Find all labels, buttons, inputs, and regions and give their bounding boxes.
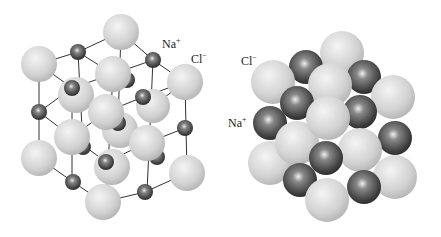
label-cl-right: Cl− — [241, 53, 257, 69]
space-filling-ions — [248, 31, 417, 222]
nacl-diagram — [0, 0, 441, 237]
label-na-left: Na+ — [162, 36, 181, 52]
label-cl-left: Cl− — [191, 51, 207, 67]
label-na-right: Na+ — [228, 115, 247, 131]
